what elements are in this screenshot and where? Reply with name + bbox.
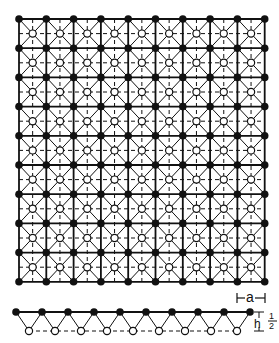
filled-atom	[234, 103, 242, 111]
filled-atom	[70, 74, 78, 82]
filled-atom	[43, 15, 51, 23]
filled-atom	[116, 308, 124, 316]
open-atom	[77, 327, 84, 334]
open-atom	[138, 30, 145, 37]
open-atom	[247, 205, 254, 212]
open-atom	[193, 147, 200, 154]
filled-atom	[261, 132, 269, 140]
filled-atom	[12, 308, 20, 316]
open-atom	[84, 147, 91, 154]
open-atom	[166, 30, 173, 37]
filled-atom	[206, 190, 214, 198]
filled-atom	[124, 278, 132, 286]
open-atom	[220, 88, 227, 95]
filled-atom	[261, 15, 269, 23]
open-atom	[84, 234, 91, 241]
filled-atom	[97, 249, 105, 257]
open-atom	[166, 264, 173, 271]
filled-atom	[234, 190, 242, 198]
filled-atom	[206, 220, 214, 228]
filled-atom	[206, 249, 214, 257]
open-atom	[56, 205, 63, 212]
open-atom	[84, 205, 91, 212]
side-view-profile	[12, 308, 254, 334]
filled-atom	[97, 44, 105, 52]
open-atom	[56, 147, 63, 154]
open-atom	[84, 118, 91, 125]
open-atom	[138, 264, 145, 271]
open-atom	[220, 264, 227, 271]
open-atom	[138, 176, 145, 183]
open-atom	[84, 59, 91, 66]
filled-atom	[15, 132, 23, 140]
open-atom	[84, 88, 91, 95]
open-atom	[193, 30, 200, 37]
open-atom	[84, 176, 91, 183]
filled-atom	[261, 74, 269, 82]
open-atom	[56, 176, 63, 183]
filled-atom	[261, 278, 269, 286]
filled-atom	[15, 249, 23, 257]
open-atom	[181, 327, 188, 334]
open-atom	[111, 205, 118, 212]
filled-atom	[90, 308, 98, 316]
open-atom	[193, 205, 200, 212]
filled-atom	[234, 74, 242, 82]
filled-atom	[179, 190, 187, 198]
open-atom	[29, 59, 36, 66]
open-atom	[84, 30, 91, 37]
filled-atom	[43, 161, 51, 169]
open-atom	[166, 205, 173, 212]
open-atom	[247, 176, 254, 183]
open-atom	[103, 327, 110, 334]
filled-atom	[97, 132, 105, 140]
filled-atom	[70, 103, 78, 111]
open-atom	[220, 59, 227, 66]
filled-atom	[43, 278, 51, 286]
filled-atom	[261, 190, 269, 198]
filled-atom	[70, 249, 78, 257]
open-atom	[111, 59, 118, 66]
filled-atom	[152, 220, 160, 228]
height-fraction: 1 2	[269, 311, 274, 331]
open-atom	[166, 234, 173, 241]
open-atom	[138, 147, 145, 154]
filled-atom	[43, 190, 51, 198]
filled-atom	[261, 44, 269, 52]
filled-atom	[179, 44, 187, 52]
open-atom	[138, 234, 145, 241]
open-atom	[111, 264, 118, 271]
filled-atom	[97, 161, 105, 169]
open-atom	[138, 118, 145, 125]
open-atom	[25, 327, 32, 334]
height-label: h	[254, 318, 261, 330]
filled-atom	[15, 74, 23, 82]
open-atom	[193, 264, 200, 271]
filled-atom	[234, 132, 242, 140]
open-atom	[138, 88, 145, 95]
filled-atom	[206, 132, 214, 140]
filled-atom	[234, 249, 242, 257]
filled-atom	[220, 308, 228, 316]
height-numerator: 1	[269, 311, 274, 321]
open-atom	[56, 118, 63, 125]
open-atom	[155, 327, 162, 334]
open-atom	[29, 30, 36, 37]
filled-atom	[97, 220, 105, 228]
filled-atom	[43, 103, 51, 111]
filled-atom	[179, 74, 187, 82]
filled-atom	[234, 44, 242, 52]
open-atom	[193, 118, 200, 125]
height-denominator: 2	[269, 321, 274, 331]
filled-atom	[234, 161, 242, 169]
filled-atom	[152, 103, 160, 111]
open-atom	[29, 176, 36, 183]
open-atom	[247, 264, 254, 271]
filled-atom	[43, 44, 51, 52]
filled-atom	[246, 308, 254, 316]
filled-atom	[15, 103, 23, 111]
filled-atom	[179, 132, 187, 140]
open-atom	[193, 176, 200, 183]
filled-atom	[124, 15, 132, 23]
filled-atom	[38, 308, 46, 316]
